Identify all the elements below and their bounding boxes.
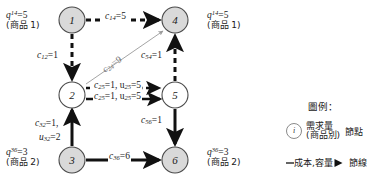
cost-value: =1	[152, 115, 162, 125]
supply-q-value: =5	[17, 10, 27, 20]
cost-value: =6	[120, 151, 130, 161]
edge-label-u32: u32=2	[38, 133, 61, 143]
legend-node-desc-line2: (商品別)	[306, 131, 340, 140]
legend-arc-term: 節線	[349, 156, 367, 169]
legend-node-icon: i	[286, 123, 302, 139]
legend-title: 圖例：	[308, 99, 338, 113]
supply-label-bottom-right: q36=3 (商品 2)	[207, 147, 241, 167]
cost-value: =1, u	[105, 80, 125, 90]
legend-arrow-icon	[334, 158, 344, 168]
supply-commodity: (商品 2)	[207, 158, 241, 167]
supply-label-bottom-left: q36=3 (商品 2)	[6, 147, 40, 167]
diagram-canvas: 1 4 2 5 3 6 q14=5 (商品 1) q14=5 (商品 1) q3…	[0, 0, 386, 187]
cost-subscript: 54	[145, 53, 152, 60]
edge-label-c25-dashed: c25=1, u25=5	[93, 81, 142, 91]
cost-value: =5	[116, 11, 126, 21]
cost-value: =1	[152, 50, 162, 60]
edge-label-c56: c56=1	[140, 116, 163, 126]
legend-node-term: 節點	[345, 125, 363, 138]
supply-q-value: =5	[218, 10, 228, 20]
cost-value: =1	[48, 50, 58, 60]
cost-subscript: 25	[98, 83, 105, 90]
capacity-value: =5	[131, 80, 141, 90]
edge-label-c25-solid: c25=1, u25=5	[93, 92, 142, 102]
cost-subscript: 56	[145, 118, 152, 125]
supply-q-value: =3	[17, 147, 27, 157]
cost-value: =1,	[46, 118, 58, 128]
supply-label-top-right: q14=5 (商品 1)	[207, 10, 241, 30]
node-3[interactable]	[59, 147, 85, 173]
cost-subscript: 25	[98, 94, 105, 101]
legend-arc-description: 成本,容量	[294, 156, 333, 169]
node-4[interactable]	[162, 7, 188, 33]
supply-q-value: =3	[218, 147, 228, 157]
edge-label-c14: c14=5	[104, 12, 127, 22]
supply-label-top-left: q14=5 (商品 1)	[6, 10, 40, 30]
edge-label-c54: c54=1	[140, 51, 163, 61]
edge-label-c36: c36=6	[108, 152, 131, 162]
legend-node-row: i 需求量 (商品別) 節點	[286, 122, 363, 140]
node-6[interactable]	[162, 147, 188, 173]
cost-value: =1, u	[105, 91, 125, 101]
cost-subscript: 12	[41, 53, 48, 60]
node-1[interactable]	[59, 7, 85, 33]
legend-node-description: 需求量 (商品別)	[306, 122, 340, 140]
cost-subscript: 14	[109, 14, 116, 21]
node-2[interactable]	[59, 82, 85, 108]
cost-subscript: 36	[113, 154, 120, 161]
legend: 圖例： i 需求量 (商品別) 節點 成本,容量 節線	[286, 99, 386, 179]
legend-arc-line-icon	[286, 158, 294, 168]
legend-arc-row: 成本,容量 節線	[286, 156, 367, 169]
supply-commodity: (商品 1)	[207, 21, 241, 30]
capacity-value: =5	[131, 91, 141, 101]
capacity-value: =2	[50, 132, 60, 142]
node-5[interactable]	[162, 82, 188, 108]
supply-commodity: (商品 2)	[6, 158, 40, 167]
edge-label-c32: c32=1,	[34, 119, 59, 129]
edge-label-c12: c12=1	[36, 51, 59, 61]
cost-subscript: 32	[39, 121, 46, 128]
supply-commodity: (商品 1)	[6, 21, 40, 30]
